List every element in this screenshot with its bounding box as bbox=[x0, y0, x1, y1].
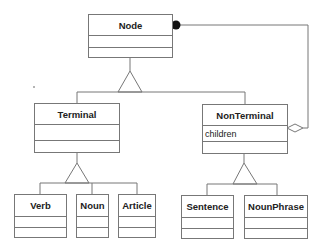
class-attributes: children bbox=[203, 126, 287, 142]
class-attributes bbox=[119, 217, 155, 228]
class-attributes bbox=[89, 36, 172, 48]
class-terminal[interactable]: Terminal bbox=[34, 103, 120, 153]
class-attributes bbox=[245, 218, 307, 229]
class-attributes bbox=[182, 218, 233, 229]
class-article[interactable]: Article bbox=[118, 194, 156, 238]
class-name: NounPhrase bbox=[245, 196, 307, 218]
class-name: Verb bbox=[15, 195, 66, 217]
class-attributes bbox=[35, 125, 119, 141]
class-name: Node bbox=[89, 15, 172, 36]
class-name: NonTerminal bbox=[203, 105, 287, 126]
class-noun[interactable]: Noun bbox=[76, 194, 109, 238]
class-attributes bbox=[15, 217, 66, 228]
class-node[interactable]: Node bbox=[88, 14, 173, 58]
class-nonterminal[interactable]: NonTerminal children bbox=[202, 104, 288, 154]
class-attributes bbox=[77, 217, 108, 228]
class-sentence[interactable]: Sentence bbox=[181, 195, 234, 239]
class-verb[interactable]: Verb bbox=[14, 194, 67, 238]
class-nounphrase[interactable]: NounPhrase bbox=[244, 195, 308, 239]
class-name: Sentence bbox=[182, 196, 233, 218]
class-name: Article bbox=[119, 195, 155, 217]
class-name: Terminal bbox=[35, 104, 119, 125]
class-name: Noun bbox=[77, 195, 108, 217]
